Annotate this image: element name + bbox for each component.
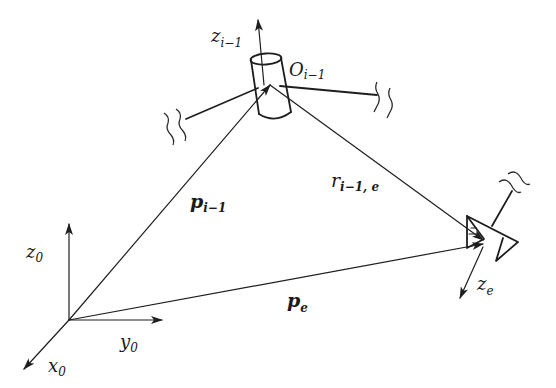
pe-label: pe xyxy=(287,289,308,315)
vector-pe-arrow xyxy=(69,244,483,320)
cylinder-top xyxy=(250,52,282,65)
z-prev-axis-arrow xyxy=(258,20,264,85)
right-link-break-icon xyxy=(374,82,379,112)
x0-axis-arrow xyxy=(24,320,69,369)
left-link-break-icon xyxy=(164,113,174,145)
labels: z0 y0 x0 zi−1 Oi−1 pi−1 ri−1, e pe ze xyxy=(25,25,494,379)
cylinder-bottom xyxy=(259,112,291,119)
r-label: ri−1, e xyxy=(331,169,379,194)
end-effector-gripper xyxy=(460,172,530,298)
joint-cylinder xyxy=(250,20,291,119)
base-frame xyxy=(24,224,162,369)
gripper-stem xyxy=(492,191,512,226)
vector-p-prev-arrow xyxy=(69,85,270,320)
right-link-break-icon xyxy=(387,88,392,118)
right-link xyxy=(280,86,377,95)
origin-prev-label: Oi−1 xyxy=(289,59,325,82)
p-prev-label: pi−1 xyxy=(190,190,226,215)
kinematics-diagram: z0 y0 x0 zi−1 Oi−1 pi−1 ri−1, e pe ze xyxy=(0,0,556,388)
vectors xyxy=(69,85,483,320)
gripper-stem-break-icon xyxy=(499,180,521,193)
x0-label: x0 xyxy=(48,355,66,379)
left-link xyxy=(186,88,258,119)
z0-label: z0 xyxy=(25,241,43,265)
gripper-stem-break-icon xyxy=(508,172,530,185)
y0-label: y0 xyxy=(119,331,138,355)
ze-label: ze xyxy=(476,273,494,298)
gripper-right-jaw xyxy=(467,216,518,261)
z-prev-label: zi−1 xyxy=(210,25,242,50)
left-link-break-icon xyxy=(176,109,186,141)
